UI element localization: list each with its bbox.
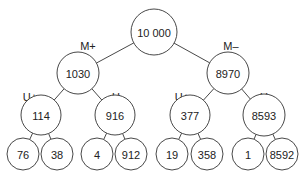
node-value: 8593 [252, 110, 276, 122]
edge-m-minus-u-plus-to-m-minus-u-plus-left [179, 133, 182, 139]
edge-m-plus-u-plus-to-m-plus-u-plus-left [30, 133, 33, 139]
node-value: 10 000 [137, 27, 171, 39]
edge-m-minus-to-m-minus-u-plus [203, 89, 213, 101]
tree-node-m-minus-u-plus: 377 [170, 95, 210, 135]
edge-m-plus-u-minus-to-m-plus-u-minus-right [123, 134, 125, 140]
tree-node-m-minus-u-minus: 8593 [243, 94, 285, 136]
tree-node-root: 10 000 [131, 9, 177, 55]
node-value: 8970 [216, 68, 240, 80]
branch-label-m-plus: M+ [80, 40, 96, 52]
node-value: 38 [51, 149, 63, 161]
tree-node-m-plus-u-minus-right: 912 [115, 138, 147, 170]
tree-node-m-minus-u-plus-left: 19 [156, 138, 188, 170]
tree-node-m-plus-u-plus-left: 76 [7, 138, 39, 170]
probability-tree-diagram: M+U+U–M–U+U– 10 000103011476389164912897… [0, 0, 308, 176]
edge-m-minus-u-minus-to-m-minus-u-minus-left [254, 134, 256, 139]
node-value: 358 [198, 149, 216, 161]
node-value: 1030 [66, 68, 90, 80]
edge-m-plus-u-plus-to-m-plus-u-plus-right [49, 134, 51, 140]
edge-root-to-m-minus [174, 43, 210, 63]
node-value: 377 [181, 110, 199, 122]
tree-node-m-plus-u-minus-left: 4 [81, 138, 113, 170]
node-value: 4 [94, 149, 100, 161]
branch-label-m-minus: M– [223, 40, 239, 52]
tree-node-m-plus-u-plus: 114 [21, 95, 61, 135]
tree-node-m-minus-u-minus-left: 1 [232, 138, 264, 170]
tree-node-m-plus-u-plus-right: 38 [41, 138, 73, 170]
node-value: 76 [17, 149, 29, 161]
tree-node-m-minus: 8970 [207, 52, 249, 94]
edge-m-plus-to-m-plus-u-minus [92, 89, 102, 100]
node-value: 114 [32, 110, 50, 122]
tree-node-m-minus-u-minus-right: 8592 [266, 138, 298, 170]
edge-m-plus-to-m-plus-u-plus [54, 89, 64, 100]
node-value: 19 [166, 149, 178, 161]
tree-node-m-minus-u-plus-right: 358 [191, 138, 223, 170]
tree-node-m-plus: 1030 [57, 52, 99, 94]
edge-m-plus-u-minus-to-m-plus-u-minus-left [104, 133, 107, 139]
edge-m-minus-u-plus-to-m-minus-u-plus-right [198, 133, 201, 139]
tree-nodes: 10 0001030114763891649128970377193588593… [7, 9, 298, 170]
node-value: 916 [106, 110, 124, 122]
node-value: 1 [245, 149, 251, 161]
node-value: 912 [122, 149, 140, 161]
edge-m-minus-u-minus-to-m-minus-u-minus-right [273, 134, 275, 139]
tree-node-m-plus-u-minus: 916 [95, 95, 135, 135]
edge-root-to-m-plus [96, 43, 133, 63]
edge-m-minus-to-m-minus-u-minus [242, 89, 251, 99]
node-value: 8592 [270, 149, 294, 161]
